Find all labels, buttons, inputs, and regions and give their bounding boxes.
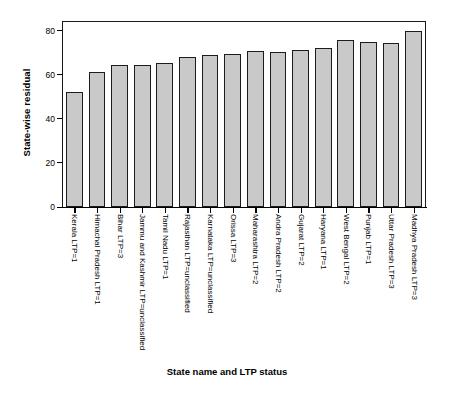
bar-series [63,22,425,207]
x-axis-tick-mark [187,208,188,213]
x-axis-tick-mark [97,208,98,213]
x-axis-tick-label: Maharashtra LTP=2 [251,214,259,364]
x-axis-tick-mark [323,208,324,213]
bar [134,65,151,207]
y-axis-tick-label: 20 [46,159,57,168]
x-axis-tick-label: Bihar LTP=3 [116,214,124,364]
x-axis-tick-label: Orissa LTP=3 [229,214,237,364]
x-axis-tick-mark [278,208,279,213]
x-axis-tick-label: Madhya Pradesh LTP=3 [410,214,418,364]
x-axis-tick-label: Haryana LTP=1 [319,214,327,364]
x-axis-tick-mark [414,208,415,213]
x-axis-tick-label: Rajasthan LTP=unclassified [183,214,191,364]
y-axis-tick-label: 80 [46,27,57,36]
bar-chart-figure: State-wise residual 020406080 Kerala LTP… [0,0,454,394]
bar [292,50,309,207]
x-axis-tick-label: Himachal Pradesh LTP=1 [93,214,101,364]
bar [337,40,354,207]
x-axis-tick-labels: Kerala LTP=1Himachal Pradesh LTP=1Bihar … [63,214,425,364]
bar [224,54,241,207]
x-axis-tick-mark [210,208,211,213]
x-axis-tick-mark [255,208,256,213]
bar [89,72,106,207]
x-axis-tick-mark [391,208,392,213]
x-axis-tick-mark [165,208,166,213]
bar [405,31,422,207]
bar [383,43,400,207]
x-axis-tick-mark [74,208,75,213]
x-axis-tick-mark [346,208,347,213]
x-axis-tick-mark [301,208,302,213]
y-axis-ticks: 020406080 [38,22,62,212]
bar [360,42,377,207]
x-axis-tick-label: Tamil Nadu LTP=1 [161,214,169,364]
bar [315,48,332,207]
x-axis-tick-label: Karnataka LTP=unclassified [206,214,214,364]
x-axis-ticks [63,208,425,213]
x-axis-tick-label: Jammu and Kashmir LTP=unclassified [138,214,146,364]
x-axis-tick-label: Punjab LTP=1 [364,214,372,364]
x-axis-tick-mark [142,208,143,213]
y-axis-title-text: State-wise residual [22,69,33,157]
x-axis-tick-label: Uttar Pradesh LTP=3 [387,214,395,364]
x-axis-tick-label: Gujarat LTP=2 [297,214,305,364]
y-axis-title: State-wise residual [18,10,36,215]
x-axis-tick-label: West Bengal LTP=2 [342,214,350,364]
x-axis-tick-label: Andra Pradesh LTP=2 [274,214,282,364]
x-axis-tick-mark [120,208,121,213]
bar [247,51,264,207]
bar [202,55,219,207]
y-axis-tick-label: 60 [46,71,57,80]
x-axis-title: State name and LTP status [0,366,454,377]
bar [66,92,83,207]
x-axis-title-text: State name and LTP status [167,366,288,377]
x-axis-tick-mark [368,208,369,213]
bar [270,52,287,207]
x-axis-tick-mark [233,208,234,213]
bar [179,57,196,207]
y-axis-tick-label: 0 [50,203,57,212]
bar [111,65,128,207]
bar [156,63,173,207]
y-axis-tick-label: 40 [46,115,57,124]
x-axis-tick-label: Kerala LTP=1 [70,214,78,364]
